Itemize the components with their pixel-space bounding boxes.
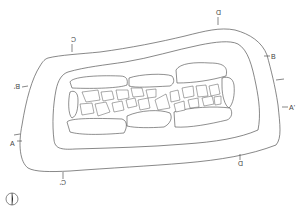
north-arrow-icon bbox=[6, 193, 18, 205]
section-label-d-prime: D bbox=[238, 160, 243, 167]
outer-mound-outline bbox=[20, 29, 280, 172]
stone-slab bbox=[222, 77, 234, 108]
section-label-c: C bbox=[71, 36, 76, 43]
section-label-a-prime: A' bbox=[289, 104, 295, 111]
section-label-d: D bbox=[216, 9, 221, 16]
section-label-b-prime: B' bbox=[14, 83, 20, 90]
section-label-c-prime: C' bbox=[60, 179, 66, 186]
stone-slab bbox=[176, 63, 227, 83]
section-ticks bbox=[14, 17, 288, 179]
cist-plan-drawing: A A' B B' C C' D D bbox=[0, 0, 305, 215]
stone-slab bbox=[129, 74, 174, 87]
section-label-b: B bbox=[271, 53, 276, 60]
stone-slab bbox=[67, 118, 126, 134]
stone-slab bbox=[69, 91, 78, 118]
stone-slab bbox=[127, 111, 171, 128]
stone-slab bbox=[70, 76, 127, 89]
section-label-a: A bbox=[10, 140, 15, 147]
